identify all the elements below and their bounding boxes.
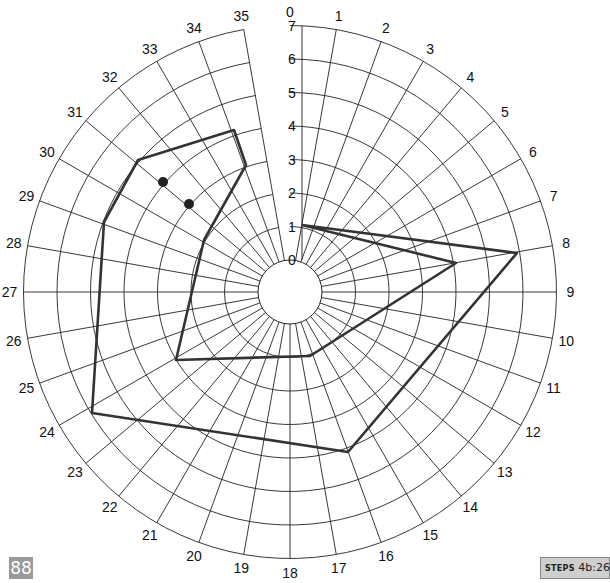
- angular-tick-label: 15: [422, 527, 438, 543]
- angular-tick-label: 32: [102, 69, 118, 85]
- angular-tick-label: 31: [67, 104, 83, 120]
- angular-tick-label: 10: [558, 333, 574, 349]
- spoke: [322, 298, 553, 339]
- marker-dot: [184, 199, 194, 209]
- angular-tick-label: 5: [501, 104, 509, 120]
- spoke: [86, 313, 266, 464]
- angular-tick-label: 33: [142, 41, 158, 57]
- radial-tick-label: 4: [288, 118, 296, 134]
- angular-tick-label: 18: [282, 565, 298, 581]
- angular-tick-label: 24: [39, 424, 55, 440]
- angular-tick-label: 16: [378, 548, 394, 564]
- polar-grid: [24, 26, 557, 559]
- angular-tick-label: 9: [567, 284, 575, 300]
- spoke: [28, 246, 259, 287]
- angular-tick-label: 29: [19, 188, 35, 204]
- angular-tick-label: 34: [186, 20, 202, 36]
- angular-tick-label: 8: [562, 235, 570, 251]
- angular-tick-label: 1: [335, 8, 343, 24]
- spoke: [40, 303, 260, 383]
- spoke: [119, 317, 270, 497]
- spoke: [157, 61, 274, 264]
- angular-tick-label: 7: [550, 188, 558, 204]
- angular-tick-label: 23: [67, 464, 83, 480]
- spoke: [320, 303, 540, 383]
- angular-tick-label: 4: [466, 69, 474, 85]
- spoke: [322, 246, 553, 287]
- angular-tick-label: 6: [529, 144, 537, 160]
- angular-tick-label: 2: [382, 20, 390, 36]
- spoke: [296, 324, 337, 555]
- radial-tick-label: 5: [288, 85, 296, 101]
- spoke: [318, 159, 521, 276]
- angular-tick-label: 28: [6, 235, 22, 251]
- spoke: [28, 298, 259, 339]
- radial-tick-label: 2: [288, 185, 296, 201]
- angular-tick-label: 14: [463, 499, 479, 515]
- angular-tick-label: 25: [19, 380, 35, 396]
- radial-tick-label: 6: [288, 51, 296, 67]
- spoke: [119, 88, 270, 268]
- radial-tick-label: 3: [288, 152, 296, 168]
- angular-tick-label: 17: [331, 560, 347, 576]
- spoke: [157, 320, 274, 523]
- angular-tick-label: 21: [142, 527, 158, 543]
- marker-dot: [158, 177, 168, 187]
- series-line-outer: [92, 130, 517, 452]
- spoke: [40, 201, 260, 281]
- steps-label: STEPS: [545, 564, 575, 573]
- angular-tick-label: 3: [426, 41, 434, 57]
- angular-tick-label: 19: [234, 560, 250, 576]
- angular-tick-label: 22: [102, 499, 118, 515]
- angular-tick-label: 30: [39, 144, 55, 160]
- spoke: [311, 88, 462, 268]
- angular-tick-label: 11: [546, 380, 561, 396]
- angular-tick-label: 12: [525, 424, 541, 440]
- angular-tick-label: 35: [234, 8, 250, 24]
- radial-tick-label: 7: [288, 18, 296, 34]
- radial-tick-label: 0: [288, 252, 296, 268]
- angular-tick-label: 20: [186, 548, 202, 564]
- radial-tick-label: 1: [288, 219, 296, 235]
- page-number-badge: 88: [9, 557, 33, 579]
- spoke: [315, 121, 495, 272]
- angular-tick-label: 26: [6, 333, 22, 349]
- data-series: [92, 130, 517, 452]
- spoke: [59, 159, 262, 276]
- spoke: [59, 308, 262, 425]
- spoke: [244, 30, 285, 261]
- angular-tick-label: 13: [497, 464, 513, 480]
- steps-badge: STEPS 4b:26: [540, 557, 610, 579]
- steps-value: 4b:26: [578, 561, 610, 574]
- inner-circle: [258, 260, 322, 324]
- spoke: [306, 320, 423, 523]
- angular-tick-label: 27: [2, 284, 18, 300]
